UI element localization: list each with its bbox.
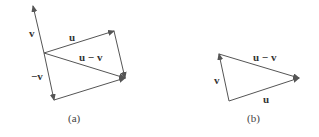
label-u-b: u	[263, 93, 269, 105]
label-u-minus-v-b: u − v	[253, 51, 277, 63]
caption-b: (b)	[247, 112, 260, 125]
label-v-b: v	[214, 74, 220, 86]
label-u-minus-v-a: u − v	[79, 51, 103, 63]
label-v-a: v	[29, 27, 35, 39]
figure-a: v −v u u − v (a)	[29, 6, 125, 125]
vector-parallel-u-a	[54, 78, 125, 100]
vector-u-a	[44, 31, 114, 53]
caption-a: (a)	[68, 112, 81, 125]
vector-v-b	[219, 54, 229, 101]
vector-diagram: v −v u u − v (a) v u u − v (b)	[0, 0, 319, 137]
figure-b: v u u − v (b)	[214, 51, 299, 125]
vector-v-a	[33, 6, 44, 53]
label-neg-v-a: −v	[31, 70, 43, 82]
vector-parallel-neg-v-a	[114, 31, 125, 78]
label-u-a: u	[69, 31, 75, 43]
vector-neg-v-a	[44, 53, 54, 100]
